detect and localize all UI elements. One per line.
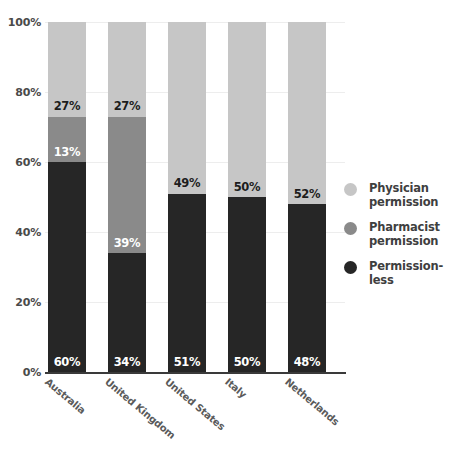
- legend-item-label: Pharmacist permission: [369, 221, 461, 248]
- x-axis-baseline: [45, 372, 346, 374]
- bar-segment-value-label: 39%: [108, 238, 146, 250]
- bar-segment[interactable]: 34%: [108, 253, 146, 372]
- plot-area: 60%13%27%34%39%27%51%49%50%50%48%52%: [45, 22, 345, 372]
- y-axis-tick-label: 40%: [1, 227, 41, 238]
- bar-segment-value-label: 49%: [168, 178, 206, 190]
- bar-group[interactable]: 50%50%: [228, 22, 266, 372]
- legend-item[interactable]: Physician permission: [344, 182, 470, 209]
- bar-group[interactable]: 34%39%27%: [108, 22, 146, 372]
- legend-item[interactable]: Permission-less: [344, 260, 470, 287]
- bar-segment[interactable]: 52%: [288, 22, 326, 204]
- bar-segment[interactable]: 39%: [108, 117, 146, 254]
- legend-item-label: Permission-less: [369, 260, 461, 287]
- bar-segment-value-label: 50%: [228, 182, 266, 194]
- y-axis-tick-label: 80%: [1, 87, 41, 98]
- y-axis-tick-label: 100%: [1, 17, 41, 28]
- x-axis-category-label: Italy: [223, 376, 249, 400]
- bar-segment-value-label: 60%: [48, 357, 86, 369]
- bar-segment[interactable]: 27%: [108, 22, 146, 117]
- bar-segment[interactable]: 48%: [288, 204, 326, 372]
- bar-group[interactable]: 48%52%: [288, 22, 326, 372]
- y-axis-tick-label: 20%: [1, 297, 41, 308]
- legend-item[interactable]: Pharmacist permission: [344, 221, 470, 248]
- circle-swatch-icon: [344, 222, 357, 235]
- bar-segment-value-label: 50%: [228, 357, 266, 369]
- y-axis: 0%20%40%60%80%100%: [0, 0, 41, 449]
- bar-segment[interactable]: 50%: [228, 22, 266, 197]
- bar-group[interactable]: 51%49%: [168, 22, 206, 372]
- bar-segment[interactable]: 60%: [48, 162, 86, 372]
- circle-swatch-icon: [344, 261, 357, 274]
- bar-segment-value-label: 51%: [168, 357, 206, 369]
- bar-segment[interactable]: 49%: [168, 22, 206, 194]
- bar-segment[interactable]: 27%: [48, 22, 86, 117]
- bar-segment-value-label: 48%: [288, 357, 326, 369]
- bar-group[interactable]: 60%13%27%: [48, 22, 86, 372]
- x-axis-category-label: United States: [163, 376, 227, 432]
- bar-segment-value-label: 34%: [108, 357, 146, 369]
- x-axis-category-label: Australia: [43, 376, 88, 416]
- stacked-bar-chart: 0%20%40%60%80%100% 60%13%27%34%39%27%51%…: [0, 0, 470, 449]
- bar-segment-value-label: 27%: [108, 101, 146, 113]
- bar-segment[interactable]: 13%: [48, 117, 86, 163]
- y-axis-tick-label: 0%: [1, 367, 41, 378]
- bar-segment-value-label: 52%: [288, 189, 326, 201]
- bar-segment[interactable]: 50%: [228, 197, 266, 372]
- legend-item-label: Physician permission: [369, 182, 461, 209]
- circle-swatch-icon: [344, 183, 357, 196]
- chart-legend: Physician permissionPharmacist permissio…: [344, 182, 470, 299]
- y-axis-tick-label: 60%: [1, 157, 41, 168]
- bar-segment[interactable]: 51%: [168, 194, 206, 373]
- x-axis-category-label: Netherlands: [283, 376, 341, 427]
- bar-segment-value-label: 27%: [48, 101, 86, 113]
- bar-segment-value-label: 13%: [48, 147, 86, 159]
